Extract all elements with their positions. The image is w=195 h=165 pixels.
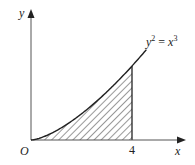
y-axis-arrow-icon — [28, 9, 35, 18]
shaded-region — [31, 66, 132, 140]
curve-equation-label: y2 = x3 — [145, 34, 177, 49]
area-under-curve-diagram: y x O 4 y2 = x3 — [0, 0, 195, 165]
x-axis-label: x — [174, 144, 181, 158]
x-axis-arrow-icon — [177, 137, 186, 144]
origin-label: O — [20, 144, 29, 158]
y-axis-label: y — [18, 6, 25, 20]
x-tick-4-label: 4 — [129, 143, 135, 157]
